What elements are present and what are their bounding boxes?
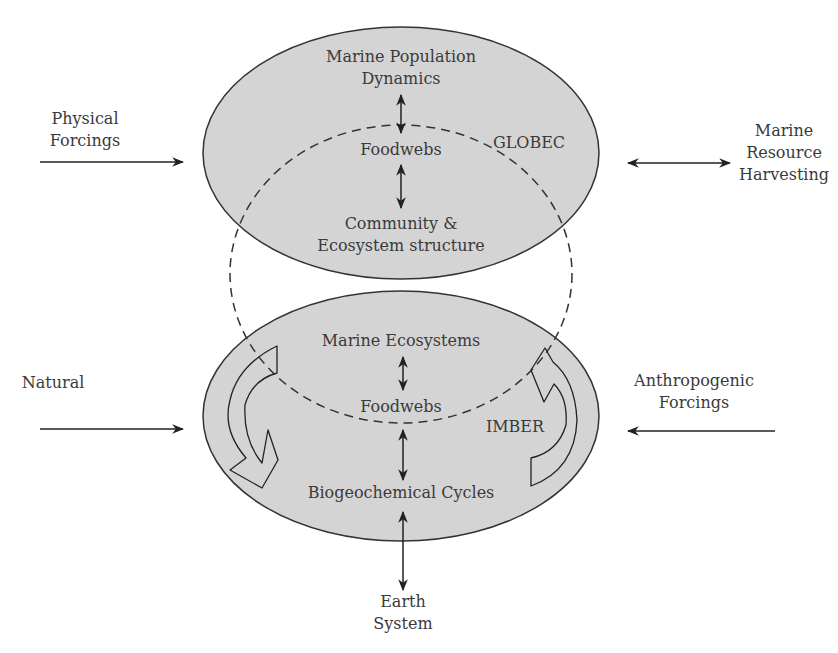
label-imber: IMBER: [475, 416, 555, 438]
diagram-canvas: [0, 0, 838, 653]
node-marine-population-dynamics: Marine Population Dynamics: [301, 46, 501, 90]
label-globec: GLOBEC: [484, 132, 574, 154]
label-anthropogenic-forcings: Anthropogenic Forcings: [624, 370, 764, 414]
label-natural: Natural: [8, 372, 98, 394]
node-marine-ecosystems: Marine Ecosystems: [301, 330, 501, 352]
node-bottom-foodwebs: Foodwebs: [331, 396, 471, 418]
node-community-ecosystem-structure: Community & Ecosystem structure: [291, 213, 511, 257]
node-biogeochemical-cycles: Biogeochemical Cycles: [291, 482, 511, 504]
label-physical-forcings: Physical Forcings: [30, 108, 140, 152]
label-marine-resource-harvesting: Marine Resource Harvesting: [734, 120, 834, 186]
label-earth-system: Earth System: [353, 591, 453, 635]
node-top-foodwebs: Foodwebs: [331, 139, 471, 161]
